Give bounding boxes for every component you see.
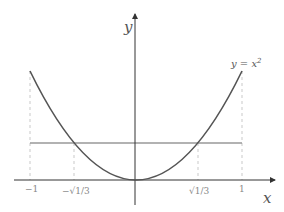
y-axis-label: y xyxy=(123,18,133,36)
tick-neg-one: −1 xyxy=(25,184,38,194)
parabola-curve xyxy=(30,71,242,180)
parabola-diagram: y x y = x2 −1 −√1/3 √1/3 1 xyxy=(0,0,284,212)
x-axis-label: x xyxy=(263,189,272,207)
function-label: y = x2 xyxy=(230,57,262,69)
tick-neg-sqrt-third: −√1/3 xyxy=(62,186,90,196)
tick-sqrt-third: √1/3 xyxy=(189,186,209,196)
tick-one: 1 xyxy=(239,184,245,194)
